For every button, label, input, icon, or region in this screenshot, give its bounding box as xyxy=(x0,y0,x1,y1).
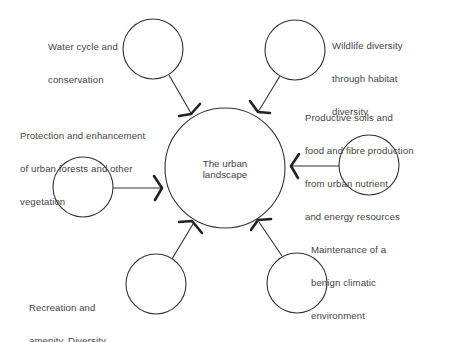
node-label-recreation: Recreation and amenity. Diversity of cho… xyxy=(29,280,122,342)
node-label-forests: Protection and enhancement of urban fore… xyxy=(20,108,145,218)
connector-climate xyxy=(259,222,282,256)
center-label: The urban landscape xyxy=(185,158,265,180)
node-circle-wildlife xyxy=(265,20,325,80)
node-label-soils: Productive soils and food and fibre prod… xyxy=(305,90,414,233)
arrowhead-recreation-icon xyxy=(179,221,202,233)
node-circle-water xyxy=(123,19,183,79)
arrowhead-wildlife-icon xyxy=(250,101,270,113)
node-circle-recreation xyxy=(126,254,186,314)
node-label-climate: Maintenance of a benign climatic environ… xyxy=(311,222,386,332)
connector-wildlife xyxy=(258,76,280,112)
center-label-line1: The urban xyxy=(185,158,265,169)
center-label-line2: landscape xyxy=(185,169,265,180)
connector-water xyxy=(169,75,192,115)
connector-recreation xyxy=(172,224,193,259)
node-label-water: Water cycle and conservation xyxy=(48,19,118,96)
